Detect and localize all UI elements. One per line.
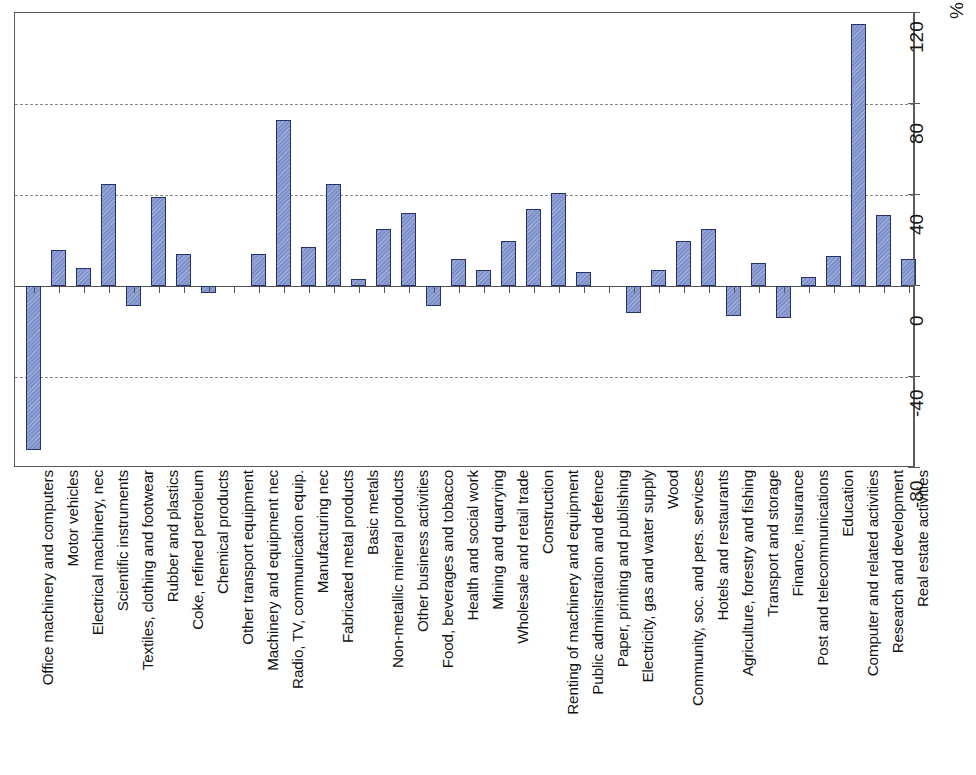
category-tick [759,286,760,293]
category-label: Wood [664,470,681,509]
bar [451,259,466,286]
value-axis: -80-4004080120 [914,12,976,467]
category-tick [659,286,660,293]
category-tick [734,286,735,293]
category-label: Health and social work [464,470,481,621]
category-tick [259,286,260,293]
category-label: Office machinery and computers [39,470,56,685]
category-label: Machinery and equipment nec [264,470,281,671]
category-label: Post and telecommunications [814,470,831,666]
category-tick [559,286,560,293]
bar [401,213,416,286]
bar [551,193,566,286]
category-label: Textiles, clothing and footwear [139,470,156,670]
category-tick [384,286,385,293]
category-tick [809,286,810,293]
axis-unit-label: % [946,2,968,19]
category-label: Non-metallic mineral products [389,470,406,668]
bar [826,256,841,286]
bar [151,197,166,286]
category-label: Food, beverages and tobacco [439,470,456,668]
bar [851,24,866,286]
category-label: Manufacturing nec [314,470,331,593]
category-tick [159,286,160,293]
category-tick [584,286,585,293]
category-tick [859,286,860,293]
category-label: Hotels and restaurants [714,470,731,621]
category-tick [34,286,35,293]
category-tick [684,286,685,293]
category-label: Other transport equipment [239,470,256,645]
category-tick [359,286,360,293]
value-tick-label: 40 [906,175,928,235]
plot-area [14,12,914,467]
category-label: Real estate activities [914,470,931,607]
category-label: Rubber and plastics [164,470,181,602]
category-label: Computer and related activities [864,470,881,676]
category-label: Chemical products [214,470,231,594]
category-tick [134,286,135,293]
bar [301,247,316,286]
bar [701,229,716,286]
category-label: Paper, printing and publishing [614,470,631,667]
bar [326,184,341,286]
category-tick [434,286,435,293]
value-tick-label: 120 [906,0,928,53]
bar [526,209,541,286]
category-tick [334,286,335,293]
category-label: Finance, insurance [789,470,806,597]
bar [676,241,691,287]
category-tick [784,286,785,293]
category-label: Education [839,470,856,537]
category-tick [884,286,885,293]
bar [651,270,666,286]
category-tick [234,286,235,293]
category-label: Scientific instruments [114,470,131,611]
bar [51,250,66,286]
category-label: Mining and quarrying [489,470,506,610]
category-tick [59,286,60,293]
category-label: Radio, TV, communication equip. [289,470,306,689]
category-tick [634,286,635,293]
category-axis-labels: Office machinery and computersMotor vehi… [14,470,914,770]
bar [276,120,291,286]
bar [476,270,491,286]
bar [501,241,516,287]
category-tick [509,286,510,293]
category-label: Electrical machinery, nec [89,470,106,635]
bar [751,263,766,286]
category-label: Coke, refined petroleum [189,470,206,630]
category-label: Construction [539,470,556,554]
category-tick [209,286,210,293]
value-tick-label: 0 [906,266,928,326]
bar [351,279,366,286]
category-tick [109,286,110,293]
bar [801,277,816,286]
bar [876,215,891,286]
bar [101,184,116,286]
category-label: Electricity, gas and water supply [639,470,656,683]
category-label: Wholesale and retail trade [514,470,531,644]
category-label: Research and development [889,470,906,653]
category-label: Basic metals [364,470,381,555]
category-tick [484,286,485,293]
category-tick [309,286,310,293]
chart-figure: -80-4004080120 % Office machinery and co… [0,0,976,775]
category-label: Community, soc. and pers. services [689,470,706,706]
category-tick [534,286,535,293]
category-tick [609,286,610,293]
bar [26,286,41,450]
category-tick [409,286,410,293]
category-tick [834,286,835,293]
category-label: Renting of machinery and equipment [564,470,581,715]
category-tick [459,286,460,293]
bar [76,268,91,286]
value-tick-label: 80 [906,84,928,144]
category-label: Public administration and defence [589,470,606,695]
bar [176,254,191,286]
category-tick [184,286,185,293]
category-label: Other business activities [414,470,431,632]
category-tick [84,286,85,293]
category-tick [709,286,710,293]
category-label: Agriculture, forestry and fishing [739,470,756,676]
